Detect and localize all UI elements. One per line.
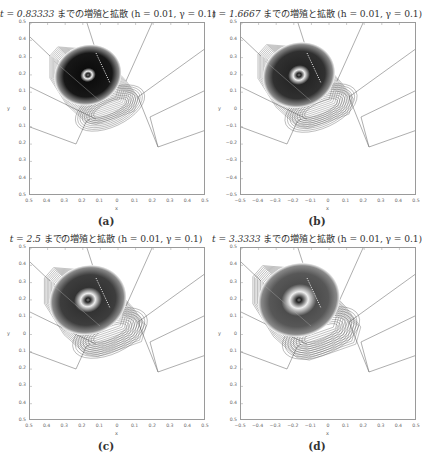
y-tick-label: 0.2 [219,71,237,76]
y-tick-label: −0.2 [219,140,237,145]
x-tick-label: 0.4 [390,423,406,428]
x-axis-label: x [115,430,118,436]
y-tick-label: 0.5 [8,19,26,24]
plot-area [240,22,416,195]
y-tick-label: 0 [8,106,26,111]
y-tick-label: −0.5 [219,192,237,197]
y-tick-label: 0 [219,331,237,336]
y-tick-label: 0.5 [219,244,237,249]
x-tick-label: 0.3 [373,423,389,428]
x-tick-label: 0.5 [408,423,424,428]
x-tick-label: 0.1 [91,423,107,428]
x-tick-label: −0.3 [267,198,283,203]
title-time: t = 0.83333 [0,8,54,19]
x-tick-label: 0.2 [355,198,371,203]
y-tick-label: 0.2 [8,365,26,370]
x-tick-label: −0.2 [285,423,301,428]
y-tick-label: 0.1 [219,313,237,318]
y-tick-label: 0.3 [8,279,26,284]
y-tick-label: 0 [219,106,237,111]
y-tick-label: 0.4 [219,400,237,405]
y-tick-label: −0.4 [219,175,237,180]
y-tick-label: 0.2 [219,296,237,301]
y-tick-label: 0.3 [8,54,26,59]
x-tick-label: 0.4 [390,198,406,203]
y-tick-label: 0.2 [8,140,26,145]
x-tick-label: 0.3 [56,423,72,428]
x-tick-label: 0.3 [373,198,389,203]
title-text: までの増殖と拡散 (h = 0.01, γ = 0.1) [54,8,216,19]
title-text: までの増殖と拡散 (h = 0.01, γ = 0.1) [260,8,422,19]
panel-caption: (a) [0,215,212,227]
y-tick-label: −0.1 [219,123,237,128]
x-tick-label: 0.3 [162,198,178,203]
y-tick-label: 0.4 [219,36,237,41]
y-tick-label: 0.3 [8,157,26,162]
x-tick-label: 0.1 [91,198,107,203]
y-tick-label: 0.4 [219,261,237,266]
y-tick-label: 0.5 [8,244,26,249]
x-tick-label: 0.2 [74,423,90,428]
y-tick-label: 0.1 [219,348,237,353]
panel-d: t = 3.3333 までの増殖と拡散 (h = 0.01, γ = 0.1) … [211,228,423,457]
y-tick-label: 0.5 [219,417,237,422]
y-tick-label: 0.3 [8,382,26,387]
y-tick-label: 0.5 [219,19,237,24]
y-tick-label: 0.4 [8,261,26,266]
x-axis-label: x [326,205,329,211]
panel-caption: (b) [211,215,423,227]
x-tick-label: 0.5 [21,198,37,203]
concentration-core [39,254,136,346]
x-tick-label: −0.1 [302,423,318,428]
concentration-core [248,251,351,348]
plot-area [29,22,205,195]
x-tick-label: 0.4 [39,423,55,428]
panel-title: t = 3.3333 までの増殖と拡散 (h = 0.01, γ = 0.1) [211,231,423,245]
contour-plot [241,23,416,195]
panel-a: t = 0.83333 までの増殖と拡散 (h = 0.01, γ = 0.1)… [0,3,212,232]
x-tick-label: 0.3 [56,198,72,203]
x-tick-label: −0.5 [232,198,248,203]
x-tick-label: 0.3 [162,423,178,428]
x-tick-label: −0.1 [302,198,318,203]
title-text: までの増殖と拡散 (h = 0.01, γ = 0.1) [41,233,203,244]
y-tick-label: 0.4 [8,175,26,180]
panel-title: t = 1.6667 までの増殖と拡散 (h = 0.01, γ = 0.1) [211,6,423,20]
y-tick-label: 0.4 [8,36,26,41]
panel-b: t = 1.6667 までの増殖と拡散 (h = 0.01, γ = 0.1) … [211,3,423,232]
y-tick-label: 0.2 [8,296,26,301]
concentration-core [253,32,344,118]
x-tick-label: 0.1 [127,423,143,428]
contour-plot [30,23,205,195]
y-tick-label: 0.3 [219,54,237,59]
plot-area [29,247,205,420]
x-tick-label: −0.4 [250,198,266,203]
y-tick-label: 0.1 [8,348,26,353]
y-tick-label: 0.5 [8,417,26,422]
x-tick-label: 0 [320,198,336,203]
title-time: t = 3.3333 [212,233,260,244]
plot-area [240,247,416,420]
x-tick-label: 0.5 [408,198,424,203]
x-axis-label: x [326,430,329,436]
x-tick-label: 0.1 [338,423,354,428]
y-tick-label: 0.5 [8,192,26,197]
x-tick-label: −0.4 [250,423,266,428]
panel-title: t = 2.5 までの増殖と拡散 (h = 0.01, γ = 0.1) [0,231,212,245]
x-tick-label: 0.2 [355,423,371,428]
x-tick-label: 0.5 [21,423,37,428]
contour-plot [30,248,205,420]
x-tick-label: 0 [109,423,125,428]
panel-title: t = 0.83333 までの増殖と拡散 (h = 0.01, γ = 0.1) [0,6,212,20]
x-tick-label: 0.2 [144,423,160,428]
y-tick-label: 0.3 [219,279,237,284]
y-tick-label: −0.3 [219,157,237,162]
x-tick-label: 0.4 [179,423,195,428]
y-tick-label: 0.2 [219,365,237,370]
y-tick-label: 0.1 [8,313,26,318]
x-tick-label: 0.2 [144,198,160,203]
y-tick-label: 0.4 [8,400,26,405]
x-tick-label: 0.4 [39,198,55,203]
panel-caption: (d) [211,440,423,452]
y-tick-label: 0.1 [8,123,26,128]
